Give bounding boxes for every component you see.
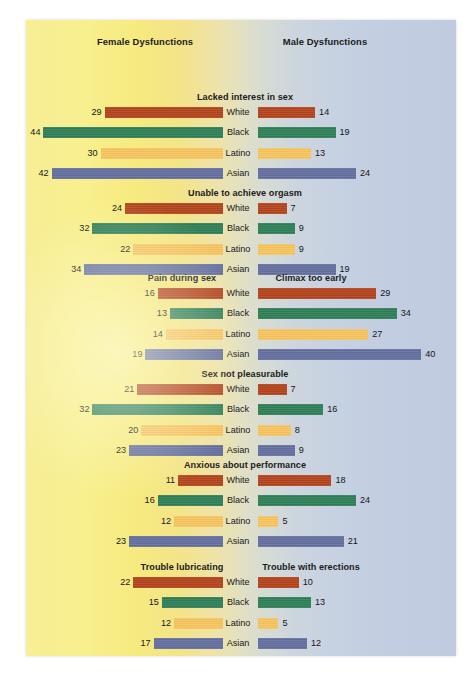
chart-panel: Female DysfunctionsMale DysfunctionsLack…	[26, 20, 456, 656]
value-label-female: 42	[39, 167, 49, 180]
chart-row: White247	[26, 202, 456, 215]
chart-row: Asian2321	[26, 535, 456, 548]
value-label-male: 8	[295, 424, 300, 437]
value-label-male: 24	[360, 167, 370, 180]
value-label-male: 18	[335, 474, 345, 487]
bar-female-latino	[174, 618, 223, 629]
chart-row: Black4419	[26, 126, 456, 139]
bar-male-white	[258, 203, 287, 214]
bar-male-asian	[258, 168, 356, 179]
column-header-female: Female Dysfunctions	[97, 36, 193, 47]
chart-row: Latino125	[26, 515, 456, 528]
value-label-male: 16	[327, 403, 337, 416]
bar-female-asian	[154, 638, 223, 649]
chart-row: Latino125	[26, 617, 456, 630]
value-label-female: 23	[116, 535, 126, 548]
category-label-white: White	[219, 106, 257, 119]
category-label-latino: Latino	[219, 243, 257, 256]
category-label-black: Black	[219, 596, 257, 609]
value-label-female: 22	[120, 576, 130, 589]
bar-male-white	[258, 577, 299, 588]
value-label-male: 7	[291, 202, 296, 215]
bar-male-latino	[258, 148, 311, 159]
chart-canvas: Female DysfunctionsMale DysfunctionsLack…	[26, 20, 456, 656]
bar-female-black	[43, 127, 223, 138]
bar-female-black	[170, 308, 223, 319]
value-label-male: 24	[360, 494, 370, 507]
category-label-white: White	[219, 474, 257, 487]
category-label-asian: Asian	[219, 167, 257, 180]
section-title-male: Trouble with erections	[262, 562, 360, 572]
value-label-male: 34	[401, 307, 411, 320]
value-label-female: 20	[128, 424, 138, 437]
value-label-male: 14	[319, 106, 329, 119]
category-label-latino: Latino	[219, 147, 257, 160]
value-label-female: 23	[116, 444, 126, 457]
bar-male-black	[258, 308, 397, 319]
category-label-black: Black	[219, 222, 257, 235]
bar-female-black	[162, 597, 223, 608]
chart-row: Asian1940	[26, 348, 456, 361]
chart-row: Asian3419	[26, 263, 456, 276]
bar-male-latino	[258, 425, 291, 436]
category-label-black: Black	[219, 126, 257, 139]
bar-male-black	[258, 223, 295, 234]
category-label-black: Black	[219, 307, 257, 320]
section-title-shared: Lacked interest in sex	[197, 92, 293, 102]
bar-male-latino	[258, 329, 368, 340]
bar-female-asian	[129, 445, 223, 456]
bar-male-latino	[258, 244, 295, 255]
chart-row: Asian1712	[26, 637, 456, 650]
value-label-female: 16	[145, 494, 155, 507]
section-title-male: Climax too early	[275, 273, 346, 283]
chart-row: Black3216	[26, 403, 456, 416]
bar-male-latino	[258, 618, 278, 629]
bar-male-latino	[258, 516, 278, 527]
chart-row: Black1334	[26, 307, 456, 320]
section-title-shared: Anxious about performance	[184, 460, 306, 470]
bar-male-white	[258, 107, 315, 118]
category-label-white: White	[219, 576, 257, 589]
value-label-female: 24	[112, 202, 122, 215]
chart-row: White1118	[26, 474, 456, 487]
category-label-black: Black	[219, 403, 257, 416]
bar-male-white	[258, 475, 331, 486]
value-label-male: 9	[299, 444, 304, 457]
bar-male-black	[258, 404, 323, 415]
bar-female-white	[125, 203, 223, 214]
section-title-female: Pain during sex	[148, 273, 216, 283]
chart-row: Black1513	[26, 596, 456, 609]
bar-female-white	[158, 288, 223, 299]
section-title-shared: Unable to achieve orgasm	[188, 188, 302, 198]
bar-female-white	[178, 475, 223, 486]
value-label-male: 27	[372, 328, 382, 341]
bar-female-asian	[129, 536, 223, 547]
value-label-male: 5	[282, 617, 287, 630]
value-label-female: 16	[145, 287, 155, 300]
bar-female-white	[105, 107, 223, 118]
category-label-white: White	[219, 383, 257, 396]
value-label-male: 9	[299, 222, 304, 235]
bar-female-latino	[101, 148, 223, 159]
bar-male-white	[258, 384, 287, 395]
chart-row: Asian4224	[26, 167, 456, 180]
value-label-male: 13	[315, 596, 325, 609]
category-label-white: White	[219, 287, 257, 300]
category-label-asian: Asian	[219, 444, 257, 457]
chart-row: White217	[26, 383, 456, 396]
bar-female-latino	[141, 425, 223, 436]
value-label-female: 22	[120, 243, 130, 256]
value-label-male: 5	[282, 515, 287, 528]
section-title-shared: Sex not pleasurable	[202, 369, 289, 379]
bar-male-asian	[258, 349, 421, 360]
value-label-male: 29	[380, 287, 390, 300]
value-label-female: 12	[161, 617, 171, 630]
chart-row: White2914	[26, 106, 456, 119]
value-label-female: 34	[71, 263, 81, 276]
bar-female-asian	[145, 349, 223, 360]
bar-female-black	[92, 223, 223, 234]
chart-row: Latino208	[26, 424, 456, 437]
chart-row: Latino1427	[26, 328, 456, 341]
bar-female-asian	[52, 168, 223, 179]
value-label-female: 11	[166, 474, 175, 487]
